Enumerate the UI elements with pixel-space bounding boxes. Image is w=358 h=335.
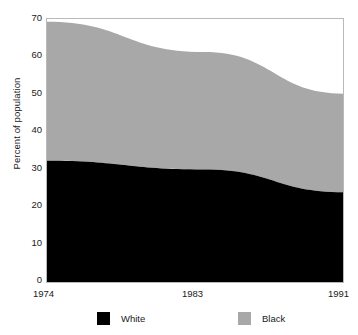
y-tick-label: 70 bbox=[22, 13, 42, 23]
y-tick-label: 0 bbox=[22, 275, 42, 285]
plot-area bbox=[46, 18, 344, 283]
legend-swatch-white bbox=[97, 312, 110, 325]
x-tick-label: 1991 bbox=[328, 288, 349, 299]
x-axis-tick-labels: 1974 1983 1991 bbox=[0, 288, 358, 302]
legend-label-black: Black bbox=[262, 313, 285, 324]
y-axis-tick-labels: 70 60 50 40 30 20 10 0 bbox=[18, 0, 42, 335]
stacked-area-chart: Percent of population 70 60 50 40 30 20 … bbox=[0, 0, 358, 335]
y-tick-label: 10 bbox=[22, 238, 42, 248]
y-tick-label: 30 bbox=[22, 163, 42, 173]
legend-entry-white: White bbox=[97, 312, 145, 325]
y-tick-label: 60 bbox=[22, 50, 42, 60]
y-tick-label: 50 bbox=[22, 88, 42, 98]
legend-label-white: White bbox=[121, 313, 145, 324]
chart-legend: White Black bbox=[0, 310, 358, 330]
legend-entry-black: Black bbox=[238, 312, 285, 325]
y-tick-label: 20 bbox=[22, 200, 42, 210]
x-tick-label: 1974 bbox=[33, 288, 54, 299]
legend-swatch-black bbox=[238, 312, 251, 325]
y-tick-label: 40 bbox=[22, 125, 42, 135]
x-tick-label: 1983 bbox=[182, 288, 203, 299]
area-series-svg bbox=[46, 18, 344, 283]
